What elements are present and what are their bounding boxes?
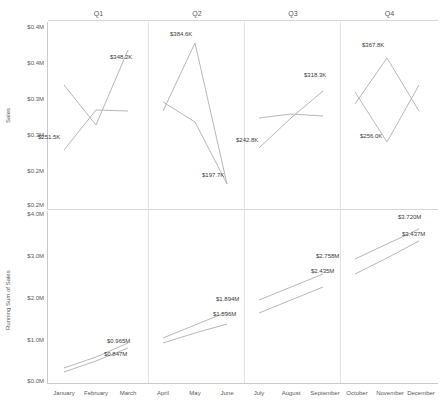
bottom-data-label-7: $3.437M: [402, 231, 425, 237]
xtick-label: March: [120, 390, 137, 396]
ytick-label: $0.2M: [27, 168, 44, 174]
ytick-label: $1.0M: [27, 337, 44, 343]
top-axis-title-label: Sales: [5, 108, 11, 123]
bottom-data-label-1: $0.847M: [104, 351, 127, 357]
top-ytick-2: $0.3M: [18, 96, 44, 102]
xtick-label: October: [346, 390, 367, 396]
data-label-text: $384.6K: [170, 31, 192, 37]
xtick-february: February: [84, 390, 108, 396]
top-q1-lines: [48, 22, 148, 209]
bottom-ytick-0: $4.0M: [18, 211, 44, 217]
top-panel-q2: [149, 22, 244, 209]
bottom-ytick-2: $2.0M: [18, 295, 44, 301]
bottom-ytick-4: $0.0M: [18, 378, 44, 384]
data-label-text: $0.965M: [107, 338, 130, 344]
ytick-label: $4.0M: [27, 211, 44, 217]
bottom-data-label-5: $2.435M: [311, 268, 334, 274]
top-data-label-0: $251.5K: [38, 134, 60, 140]
top-data-label-1: $348.2K: [110, 54, 132, 60]
chart-root: Q1 Q2 Q3 Q4 Sales Running Sum of Sales $…: [0, 0, 446, 413]
xtick-september: September: [310, 390, 339, 396]
xtick-label: July: [254, 390, 265, 396]
data-label-text: $2.435M: [311, 268, 334, 274]
bottom-panel-q4: [341, 212, 437, 383]
data-label-text: $1.596M: [213, 311, 236, 317]
bottom-axis-title: Running Sum of Sales: [5, 250, 11, 350]
panel-header-q3: Q3: [245, 6, 341, 20]
top-panel-q1: [48, 22, 148, 209]
xtick-october: October: [346, 390, 367, 396]
top-ytick-4: $0.2M: [18, 168, 44, 174]
data-label-text: $251.5K: [38, 134, 60, 140]
data-label-text: $3.720M: [398, 214, 421, 220]
ytick-label: $0.3M: [27, 96, 44, 102]
xtick-june: June: [220, 390, 233, 396]
xtick-label: August: [282, 390, 301, 396]
top-q4-lines: [341, 22, 437, 209]
xtick-july: July: [254, 390, 265, 396]
top-ytick-5: $0.2M: [18, 202, 44, 208]
xtick-label: December: [407, 390, 435, 396]
xtick-april: April: [157, 390, 169, 396]
panel-header-q2: Q2: [149, 6, 245, 20]
bottom-q4-lines: [341, 212, 437, 383]
top-q2-lines: [149, 22, 244, 209]
top-panel-q4: [341, 22, 437, 209]
panel-header-label: Q3: [288, 10, 297, 17]
bottom-panel-q1: [48, 212, 148, 383]
data-label-text: $3.437M: [402, 231, 425, 237]
bottom-ytick-3: $1.0M: [18, 337, 44, 343]
row-divider: [47, 209, 438, 210]
top-axis-title: Sales: [5, 80, 11, 150]
ytick-label: $0.2M: [27, 202, 44, 208]
xtick-label: September: [310, 390, 339, 396]
top-data-label-4: $242.8K: [236, 137, 258, 143]
xtick-august: August: [282, 390, 301, 396]
xtick-may: May: [189, 390, 200, 396]
xtick-label: February: [84, 390, 108, 396]
ytick-label: $0.0M: [27, 378, 44, 384]
ytick-label: $2.0M: [27, 295, 44, 301]
bottom-data-label-4: $2.758M: [316, 253, 339, 259]
xtick-label: June: [220, 390, 233, 396]
bottom-data-label-2: $1.894M: [216, 296, 239, 302]
data-label-text: $256.0K: [360, 133, 382, 139]
data-label-text: $1.894M: [216, 296, 239, 302]
ytick-label: $3.0M: [27, 253, 44, 259]
top-panel-q3: [245, 22, 340, 209]
top-data-label-2: $384.6K: [170, 31, 192, 37]
header-divider: [48, 20, 438, 21]
top-data-label-3: $197.7K: [202, 172, 224, 178]
bottom-q1-lines: [48, 212, 148, 383]
bottom-data-label-6: $3.720M: [398, 214, 421, 220]
ytick-label: $0.4M: [27, 60, 44, 66]
panel-header-q1: Q1: [48, 6, 149, 20]
bottom-panel-q3: [245, 212, 340, 383]
x-axis-line: [47, 383, 438, 384]
ytick-label: $0.4M: [27, 24, 44, 30]
panel-header-label: Q4: [385, 10, 394, 17]
data-label-text: $348.2K: [110, 54, 132, 60]
xtick-label: April: [157, 390, 169, 396]
top-q3-lines: [245, 22, 340, 209]
panel-header-label: Q2: [192, 10, 201, 17]
xtick-december: December: [407, 390, 435, 396]
bottom-q3-lines: [245, 212, 340, 383]
data-label-text: $0.847M: [104, 351, 127, 357]
data-label-text: $318.3K: [304, 72, 326, 78]
top-data-label-7: $256.0K: [360, 133, 382, 139]
xtick-march: March: [120, 390, 137, 396]
bottom-ytick-1: $3.0M: [18, 253, 44, 259]
panel-header-q4: Q4: [341, 6, 438, 20]
data-label-text: $367.8K: [362, 42, 384, 48]
bottom-data-label-3: $1.596M: [213, 311, 236, 317]
xtick-label: November: [376, 390, 404, 396]
panel-header-label: Q1: [94, 10, 103, 17]
xtick-label: January: [53, 390, 74, 396]
top-data-label-6: $367.8K: [362, 42, 384, 48]
bottom-axis-title-label: Running Sum of Sales: [5, 270, 11, 330]
xtick-january: January: [53, 390, 74, 396]
top-ytick-0: $0.4M: [18, 24, 44, 30]
xtick-november: November: [376, 390, 404, 396]
top-ytick-1: $0.4M: [18, 60, 44, 66]
